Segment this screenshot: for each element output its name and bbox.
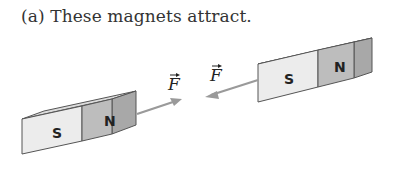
diagram: S N S N F F: [0, 0, 398, 169]
force-arrow-left: F: [205, 64, 258, 99]
right-magnet-n-label: N: [334, 59, 346, 75]
force-arrow-right: F: [137, 73, 182, 114]
force-label-right: F: [209, 65, 223, 85]
force-label-left: F: [167, 74, 181, 94]
right-magnet: S N: [258, 38, 372, 102]
left-magnet-n-label: N: [104, 113, 116, 129]
left-magnet-s-label: S: [52, 125, 62, 141]
right-magnet-s-label: S: [284, 71, 294, 87]
left-magnet: S N: [22, 91, 136, 154]
